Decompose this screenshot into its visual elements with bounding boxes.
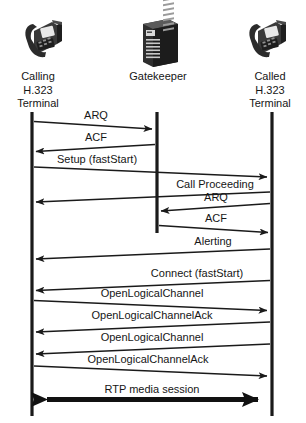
message-label-olc-ack-2: OpenLogicalChannelAck xyxy=(87,353,208,365)
desk-phone-icon-called xyxy=(249,20,286,57)
server-tower-icon xyxy=(143,0,178,67)
message-label-arq-1: ARQ xyxy=(84,109,108,121)
arrow-arq-2 xyxy=(161,204,270,212)
arrow-acf-2 xyxy=(159,226,268,233)
message-label-olc-1: OpenLogicalChannel xyxy=(101,287,204,299)
arrow-arq-1 xyxy=(34,122,152,130)
arrow-alerting xyxy=(36,249,270,259)
message-label-setup: Setup (fastStart) xyxy=(57,153,137,165)
arrow-setup xyxy=(34,167,267,177)
message-label-olc-2: OpenLogicalChannel xyxy=(101,331,204,343)
actor-label-gatekeeper: Gatekeeper xyxy=(110,70,206,84)
message-label-alerting: Alerting xyxy=(194,235,231,247)
message-label-connect: Connect (fastStart) xyxy=(151,267,243,279)
actor-label-called: Called H.323 Terminal xyxy=(234,70,306,111)
arrow-olc-ack-2 xyxy=(34,366,267,376)
arrow-acf-1 xyxy=(36,145,155,152)
message-label-olc-ack-1: OpenLogicalChannelAck xyxy=(91,309,212,321)
message-label-call-proceeding: Call Proceeding xyxy=(176,178,254,190)
arrow-call-proceeding xyxy=(36,192,270,202)
message-label-rtp-media-session: RTP media session xyxy=(105,383,200,395)
message-label-acf-1: ACF xyxy=(85,131,107,143)
actor-label-calling: Calling H.323 Terminal xyxy=(0,70,76,111)
desk-phone-icon-calling xyxy=(25,20,62,57)
message-label-acf-2: ACF xyxy=(205,212,227,224)
message-label-arq-2: ARQ xyxy=(204,191,228,203)
